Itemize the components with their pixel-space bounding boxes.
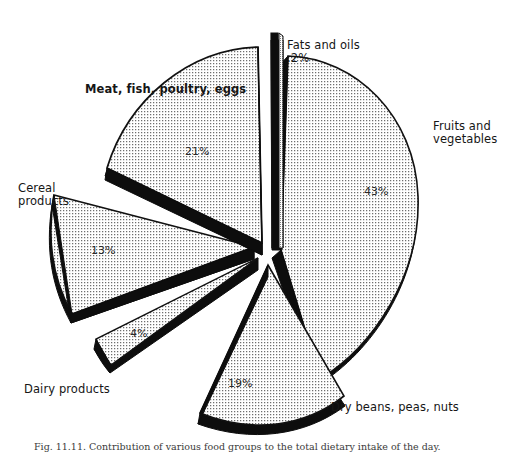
- label-fats-and-oils: Fats and oils .2%: [287, 25, 360, 79]
- slice-pct-dairy: 4%: [130, 327, 147, 340]
- label-meat-fish-poultry-eggs: Meat, fish, poultry, eggs: [85, 69, 246, 96]
- label-dry-beans-peas-nuts: Dry beans, peas, nuts: [331, 387, 459, 414]
- label-fruits-and-vegetables: Fruits and vegetables: [433, 106, 497, 147]
- slice-pct-meat: 21%: [185, 145, 209, 158]
- label-dry-beans-peas-nuts-text: Dry beans, peas, nuts: [331, 400, 459, 414]
- slice-pct-cereal: 13%: [91, 244, 115, 257]
- label-dairy-products-text: Dairy products: [24, 382, 110, 396]
- figure-caption: Fig. 11.11. Contribution of various food…: [34, 441, 504, 455]
- label-dairy-products: Dairy products: [24, 369, 110, 396]
- pie-chart-figure: 43% 21% 13% 4% 19% Fats and oils .2% Mea…: [0, 0, 523, 455]
- label-meat-fish-poultry-eggs-text: Meat, fish, poultry, eggs: [85, 82, 246, 96]
- pie-slice-fats-and-oils[interactable]: [271, 33, 283, 248]
- label-fats-and-oils-pct: .2%: [287, 52, 360, 66]
- slice-pct-fruits: 43%: [364, 185, 388, 198]
- label-cereal-products: Cereal products: [18, 168, 69, 209]
- label-fruits-and-vegetables-text: Fruits and vegetables: [433, 119, 497, 147]
- slice-pct-beans: 19%: [228, 377, 252, 390]
- label-cereal-products-text: Cereal products: [18, 181, 69, 209]
- label-fats-and-oils-text: Fats and oils: [287, 38, 360, 52]
